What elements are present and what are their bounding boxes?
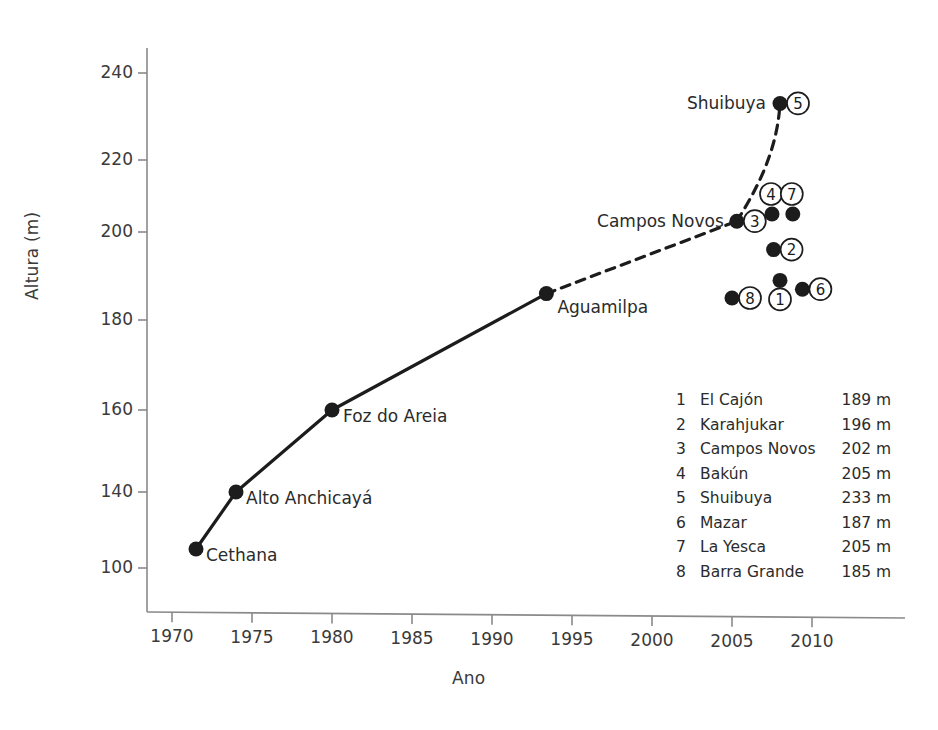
legend-row: 5Shuibuya233 m: [676, 488, 891, 513]
legend-value: 233 m: [842, 488, 892, 513]
legend-value: 196 m: [842, 415, 892, 440]
point-label-cethana: Cethana: [206, 545, 277, 565]
legend-value: 187 m: [842, 513, 892, 538]
data-point-cethana: [189, 542, 204, 557]
legend-number: 8: [676, 562, 700, 587]
y-axis-title: Altura (m): [22, 212, 42, 300]
y-tick-label-140: 140: [101, 481, 133, 501]
x-axis-title: Ano: [452, 668, 485, 688]
badge-label-6: 6: [816, 281, 826, 299]
series-line-dashed: [546, 221, 736, 293]
x-tick-label-1990: 1990: [466, 629, 518, 649]
legend-number: 2: [676, 415, 700, 440]
y-tick-label-160: 160: [101, 399, 133, 419]
legend-row: 1El Cajón189 m: [676, 390, 891, 415]
data-point-shuibuya: [773, 96, 788, 111]
legend-name: Mazar: [700, 513, 842, 538]
y-tick-label-100: 100: [101, 557, 133, 577]
legend-number: 6: [676, 513, 700, 538]
legend-row: 2Karahjukar196 m: [676, 415, 891, 440]
badge-label-1: 1: [775, 291, 785, 309]
legend-row: 7La Yesca205 m: [676, 537, 891, 562]
x-tick-label-2010: 2010: [786, 631, 838, 651]
point-label-alto_anchicaya: Alto Anchicayá: [246, 488, 372, 508]
legend-panel: 1El Cajón189 m2Karahjukar196 m3Campos No…: [676, 390, 891, 586]
badge-label-5: 5: [793, 95, 803, 113]
badge-label-7: 7: [787, 186, 797, 204]
x-tick-label-1975: 1975: [226, 627, 278, 647]
y-tick-label-240: 240: [101, 62, 133, 82]
legend-name: Campos Novos: [700, 439, 842, 464]
x-tick-label-2005: 2005: [706, 631, 758, 651]
data-point-8: [725, 291, 740, 306]
data-point-alto_anchicaya: [229, 485, 244, 500]
badge-label-3: 3: [750, 213, 760, 231]
data-point-campos_novos: [729, 214, 744, 229]
legend-value: 185 m: [842, 562, 892, 587]
point-label-shuibuya: Shuibuya: [687, 93, 766, 113]
point-label-foz_do_areia: Foz do Areia: [343, 406, 447, 426]
legend-row: 8Barra Grande185 m: [676, 562, 891, 587]
data-point-7: [785, 207, 800, 222]
dam-height-record-chart: 12345678 Altura (m) Ano 2402202001801601…: [0, 0, 938, 730]
point-label-campos_novos: Campos Novos: [597, 211, 724, 231]
x-axis-line: [147, 612, 905, 618]
x-tick-label-1985: 1985: [386, 628, 438, 648]
legend-number: 7: [676, 537, 700, 562]
legend-name: Karahjukar: [700, 415, 842, 440]
data-point-1: [773, 273, 788, 288]
legend-row: 3Campos Novos202 m: [676, 439, 891, 464]
legend-table: 1El Cajón189 m2Karahjukar196 m3Campos No…: [676, 390, 891, 586]
y-tick-label-200: 200: [101, 221, 133, 241]
badge-label-8: 8: [745, 290, 755, 308]
x-tick-label-1970: 1970: [146, 626, 198, 646]
legend-value: 205 m: [842, 464, 892, 489]
legend-row: 4Bakún205 m: [676, 464, 891, 489]
data-point-2: [766, 242, 781, 257]
legend-value: 189 m: [842, 390, 892, 415]
legend-name: Shuibuya: [700, 488, 842, 513]
legend-value: 202 m: [842, 439, 892, 464]
legend-number: 1: [676, 390, 700, 415]
data-point-4: [765, 207, 780, 222]
legend-number: 4: [676, 464, 700, 489]
data-point-foz_do_areia: [325, 403, 340, 418]
data-point-6: [795, 282, 810, 297]
plot-area: 12345678: [0, 0, 938, 730]
badge-label-2: 2: [787, 241, 797, 259]
x-tick-label-1980: 1980: [306, 627, 358, 647]
legend-number: 3: [676, 439, 700, 464]
badge-label-4: 4: [766, 186, 776, 204]
data-point-aguamilpa: [539, 286, 554, 301]
legend-value: 205 m: [842, 537, 892, 562]
legend-name: Barra Grande: [700, 562, 842, 587]
y-tick-label-180: 180: [101, 309, 133, 329]
point-label-aguamilpa: Aguamilpa: [557, 297, 648, 317]
y-tick-label-220: 220: [101, 149, 133, 169]
x-tick-label-1995: 1995: [546, 629, 598, 649]
legend-name: El Cajón: [700, 390, 842, 415]
legend-name: Bakún: [700, 464, 842, 489]
legend-row: 6Mazar187 m: [676, 513, 891, 538]
x-tick-label-2000: 2000: [626, 630, 678, 650]
legend-number: 5: [676, 488, 700, 513]
legend-name: La Yesca: [700, 537, 842, 562]
